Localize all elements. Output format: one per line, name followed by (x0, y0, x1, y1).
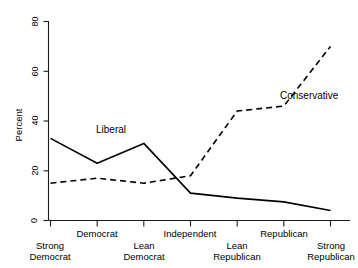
series-line-conservative (51, 46, 331, 183)
x-tick-label-strong-democrat: Strong Democrat (29, 240, 70, 262)
y-axis-title: Percent (0, 120, 45, 130)
series-annotation-liberal: Liberal (96, 124, 126, 135)
x-tick-line-1: Strong (307, 240, 355, 251)
x-axis-ticks (51, 221, 331, 227)
x-tick-label-republican: Republican (260, 228, 308, 239)
x-tick-line-1: Independent (164, 228, 217, 239)
y-tick-label-20: 20 (28, 166, 42, 175)
chart-container: 80 60 40 20 0 Percent Strong Democrat De… (0, 0, 358, 268)
x-tick-label-lean-republican: Lean Republican (213, 240, 261, 262)
x-tick-label-strong-republican: Strong Republican (307, 240, 355, 262)
y-tick-label-0: 0 (28, 216, 42, 225)
y-tick-label-60: 60 (28, 67, 42, 76)
x-tick-line-1: Strong (29, 240, 70, 251)
x-tick-label-democrat: Democrat (76, 228, 117, 239)
x-tick-line-2: Democrat (29, 251, 70, 262)
x-tick-line-2: Democrat (123, 251, 164, 262)
x-tick-line-1: Republican (260, 228, 308, 239)
series-annotation-conservative: Conservative (280, 90, 338, 101)
y-tick-label-80: 80 (28, 17, 42, 26)
x-tick-line-2: Republican (213, 251, 261, 262)
x-tick-line-1: Lean (213, 240, 261, 251)
x-tick-label-lean-democrat: Lean Democrat (123, 240, 164, 262)
x-tick-line-1: Democrat (76, 228, 117, 239)
x-tick-line-2: Republican (307, 251, 355, 262)
x-tick-label-independent: Independent (164, 228, 217, 239)
x-tick-line-1: Lean (123, 240, 164, 251)
